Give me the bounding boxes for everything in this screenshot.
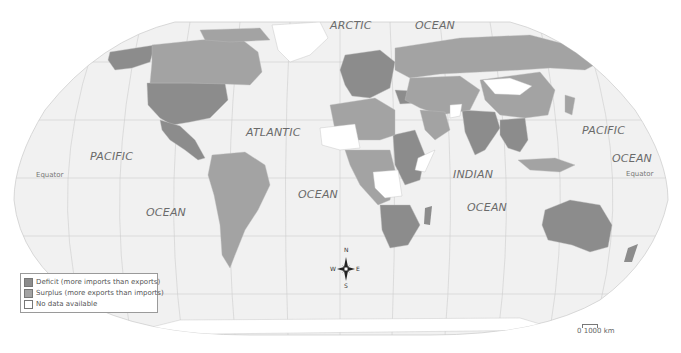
equator-label-left: Equator [36,171,64,179]
swatch-deficit [24,278,33,287]
legend-item-no-data: No data available [24,299,154,309]
label-atlantic-ocean: OCEAN [298,188,338,201]
label-indian-ocean: OCEAN [467,201,507,214]
compass-east: E [356,265,360,272]
swatch-no-data [24,300,33,309]
label-atlantic: ATLANTIC [245,126,301,139]
swatch-surplus [24,289,33,298]
legend-label-deficit: Deficit (more imports than exports) [36,277,160,287]
label-arctic-ocean: OCEAN [415,19,455,32]
compass-west: W [330,265,336,272]
label-pacific-east: PACIFIC [582,124,625,137]
label-pacific-east-ocean: OCEAN [612,152,652,165]
scale-label: 0 1000 km [577,327,615,335]
label-indian: INDIAN [453,168,493,181]
compass-south: S [344,282,348,289]
label-pacific-west-ocean: OCEAN [146,206,186,219]
legend-item-surplus: Surplus (more exports than imports) [24,288,154,298]
label-arctic: ARCTIC [329,19,372,32]
map-legend: Deficit (more imports than exports) Surp… [20,273,158,313]
legend-item-deficit: Deficit (more imports than exports) [24,277,154,287]
legend-label-surplus: Surplus (more exports than imports) [36,288,164,298]
legend-label-no-data: No data available [36,299,97,309]
compass-north: N [344,246,349,253]
equator-label-right: Equator [626,170,654,178]
label-pacific-west: PACIFIC [90,150,133,163]
